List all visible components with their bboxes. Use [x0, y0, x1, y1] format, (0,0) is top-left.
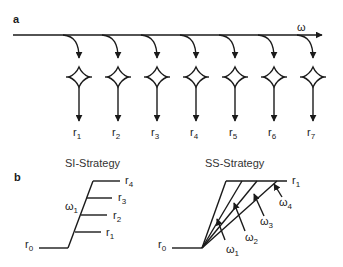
panel-a-label: a: [13, 13, 20, 25]
si-r1-label: r1: [106, 226, 115, 241]
ss-r0-label: r0: [158, 238, 167, 253]
resonator-column: r7: [297, 35, 326, 141]
ss-strategy-title: SS-Strategy: [205, 157, 265, 169]
ss-omega4-label: ω4: [279, 196, 293, 211]
si-r2-label: r2: [113, 209, 122, 224]
resonator-column: r1: [63, 35, 92, 141]
resonator-diamond-icon: [108, 67, 128, 87]
resonator-column: r6: [258, 35, 287, 141]
ss-omega1-label: ω1: [226, 243, 240, 258]
output-label-r2: r2: [112, 126, 121, 141]
omega-axis-label: ω: [297, 21, 306, 33]
si-omega1-label: ω1: [65, 200, 79, 215]
ss-omega2-arrow: [234, 203, 245, 231]
panel-a: a ω r1r2r3r4r5r6r7: [13, 13, 326, 141]
coupling-arrow: [297, 35, 313, 58]
resonator-column: r5: [219, 35, 248, 141]
resonator-diamond-icon: [147, 67, 167, 87]
si-r4-label: r4: [125, 174, 134, 189]
resonator-diamond-icon: [225, 67, 245, 87]
ss-r1-label: r1: [292, 174, 301, 189]
output-label-r7: r7: [307, 126, 316, 141]
si-strategy-title: SI-Strategy: [65, 157, 121, 169]
coupling-arrow: [63, 35, 79, 58]
resonator-diamond-icon: [264, 67, 284, 87]
coupling-arrow: [258, 35, 274, 58]
resonator-diamond-icon: [69, 67, 89, 87]
ss-omega3-label: ω3: [260, 215, 274, 230]
resonator-column: r4: [180, 35, 209, 141]
output-label-r3: r3: [151, 126, 160, 141]
resonator-columns: r1r2r3r4r5r6r7: [63, 35, 326, 141]
output-label-r4: r4: [190, 126, 199, 141]
figure: a ω r1r2r3r4r5r6r7 b SI-Strategy r0 ω1 r…: [0, 0, 343, 267]
resonator-diamond-icon: [186, 67, 206, 87]
ss-strategy-diagram: SS-Strategy r0 r1 ω1 ω2 ω3 ω4: [158, 157, 301, 258]
si-r0-label: r0: [25, 238, 34, 253]
si-strategy-diagram: SI-Strategy r0 ω1 r1 r2 r3 r4: [25, 157, 134, 253]
output-label-r5: r5: [229, 126, 238, 141]
coupling-arrow: [219, 35, 235, 58]
panel-b-label: b: [14, 171, 21, 183]
resonator-diamond-icon: [303, 67, 323, 87]
output-label-r1: r1: [73, 126, 82, 141]
resonator-column: r3: [141, 35, 170, 141]
resonator-column: r2: [102, 35, 131, 141]
output-label-r6: r6: [268, 126, 277, 141]
coupling-arrow: [141, 35, 157, 58]
coupling-arrow: [180, 35, 196, 58]
ss-omega2-label: ω2: [245, 231, 259, 246]
panel-b: b SI-Strategy r0 ω1 r1 r2 r3 r4 SS-Strat…: [14, 157, 301, 258]
si-r3-label: r3: [118, 191, 127, 206]
coupling-arrow: [102, 35, 118, 58]
